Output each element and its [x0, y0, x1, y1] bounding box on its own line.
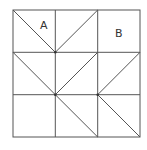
vertex-dot	[54, 93, 57, 96]
diagonal-r2c3	[98, 52, 140, 94]
label-b: B	[115, 27, 123, 40]
label-a: A	[40, 19, 48, 32]
diagonal-r3c3	[98, 95, 140, 137]
diagonal-r2c1	[13, 52, 55, 94]
diagonal-r2c2	[55, 52, 97, 94]
diagonal-r3c2	[55, 95, 97, 137]
vertex-dot	[96, 93, 99, 96]
diagonal-r1c1	[13, 10, 55, 52]
vertex-dot	[54, 51, 57, 54]
grid-diagram: A B	[0, 0, 147, 150]
diagonal-r1c2	[55, 10, 97, 52]
